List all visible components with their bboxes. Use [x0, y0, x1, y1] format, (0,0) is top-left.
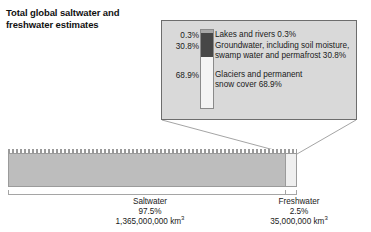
legend-item-lakes: Lakes and rivers 0.3% [215, 30, 296, 40]
freshwater-volume-value: 35,000,000 km [270, 217, 324, 226]
percent-lakes: 0.3% [163, 31, 199, 40]
label-freshwater: Freshwater 2.5% 35,000,000 km3 [236, 197, 362, 227]
saltwater-name: Saltwater [75, 197, 225, 207]
bar-baseline-ruler [8, 190, 297, 195]
freshwater-callout-box: 0.3% 30.8% 68.9% Lakes and rivers 0.3% G… [161, 20, 357, 120]
saltwater-volume: 1,365,000,000 km3 [75, 217, 225, 227]
callout-legend: Lakes and rivers 0.3% Groundwater, inclu… [215, 21, 354, 121]
segment-glaciers [201, 57, 213, 108]
freshwater-volume: 35,000,000 km3 [236, 217, 362, 227]
legend-lakes-line-1: Lakes and rivers 0.3% [215, 30, 296, 40]
global-water-bar [8, 149, 297, 189]
percent-groundwater: 30.8% [163, 42, 199, 51]
segment-freshwater [285, 154, 296, 186]
percentage-column: 0.3% 30.8% 68.9% [162, 21, 199, 121]
segment-groundwater [201, 33, 213, 57]
saltwater-percent: 97.5% [75, 207, 225, 217]
legend-item-groundwater: Groundwater, including soil moisture, sw… [215, 41, 349, 61]
saltwater-volume-value: 1,365,000,000 km [116, 217, 182, 226]
legend-groundwater-line-2: swamp water and permafrost 30.8% [215, 51, 349, 61]
baseline-divider-tick [285, 190, 286, 195]
legend-glaciers-line-1: Glaciers and permanent [215, 70, 302, 80]
percent-glaciers: 68.9% [163, 71, 199, 80]
bar-front-face [8, 154, 297, 187]
freshwater-volume-exponent: 3 [324, 215, 327, 221]
freshwater-name: Freshwater [236, 197, 362, 207]
legend-groundwater-line-1: Groundwater, including soil moisture, [215, 41, 349, 51]
legend-glaciers-line-2: snow cover 68.9% [215, 80, 302, 90]
segment-saltwater [9, 154, 285, 186]
freshwater-percent: 2.5% [236, 207, 362, 217]
freshwater-stacked-bar [200, 29, 214, 109]
label-saltwater: Saltwater 97.5% 1,365,000,000 km3 [75, 197, 225, 227]
water-estimates-infographic: Total global saltwater and freshwater es… [0, 0, 371, 232]
saltwater-volume-exponent: 3 [181, 215, 184, 221]
legend-item-glaciers: Glaciers and permanent snow cover 68.9% [215, 70, 302, 90]
